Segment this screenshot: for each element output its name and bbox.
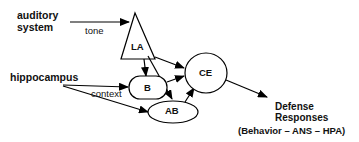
- behavior-ans-hpa-line: (Behavior – ANS – HPA): [238, 126, 345, 136]
- edge-ab-to-ce: [185, 88, 194, 102]
- edge-la-to-ce: [155, 57, 184, 68]
- ce-label: CE: [199, 68, 212, 78]
- defense-line: Defense: [275, 101, 345, 112]
- edge-b-to-ce: [167, 76, 184, 82]
- edge-ce-to-defense: [226, 80, 267, 97]
- system-line: system: [17, 22, 58, 34]
- responses-line: Responses: [275, 112, 345, 123]
- auditory-system-label: auditory system: [17, 10, 58, 33]
- b-label: B: [144, 83, 151, 93]
- edge-hippocampus-to-b: [63, 85, 128, 87]
- edge-la-to-b: [144, 59, 146, 76]
- context-label: context: [91, 89, 122, 99]
- tone-label: tone: [85, 26, 104, 36]
- ab-label: AB: [165, 106, 179, 116]
- auditory-line: auditory: [17, 10, 58, 22]
- defense-responses-label: Defense Responses (Behavior – ANS – HPA): [265, 101, 345, 136]
- la-label: LA: [131, 42, 144, 52]
- hippocampus-label: hippocampus: [10, 72, 78, 84]
